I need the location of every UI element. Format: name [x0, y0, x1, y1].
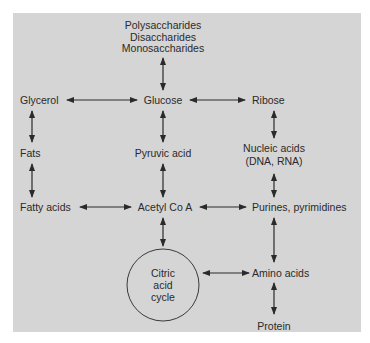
node-fatty-acids: Fatty acids	[20, 201, 71, 213]
node-citric-acid: acid	[153, 279, 172, 291]
node-polysaccharides: Polysaccharides	[125, 19, 201, 31]
node-purines-pyrimidines: Purines, pyrimidines	[252, 201, 347, 213]
node-pyruvic-acid: Pyruvic acid	[135, 147, 192, 159]
node-glucose: Glucose	[144, 94, 183, 106]
node-protein: Protein	[257, 320, 290, 332]
node-ribose: Ribose	[252, 94, 285, 106]
node-nucleic-acids: Nucleic acids	[243, 142, 305, 154]
node-glycerol: Glycerol	[20, 94, 59, 106]
node-nucleic-acids-detail: (DNA, RNA)	[245, 155, 302, 167]
node-amino-acids: Amino acids	[252, 267, 309, 279]
node-citric-cycle: cycle	[151, 291, 175, 303]
node-fats: Fats	[20, 147, 40, 159]
node-acetyl-coa: Acetyl Co A	[138, 201, 192, 213]
node-citric: Citric	[151, 267, 175, 279]
node-monosaccharides: Monosaccharides	[122, 42, 204, 54]
